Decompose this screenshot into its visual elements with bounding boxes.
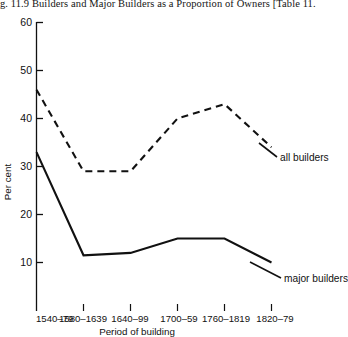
y-axis-ticks — [37, 23, 44, 263]
x-tick-label-1700-59: 1700–59 — [160, 313, 197, 324]
chart-svg: 60 50 40 30 20 10 Per cent 1540–79 1580–… — [0, 10, 348, 337]
y-tick-label-40: 40 — [20, 112, 32, 124]
x-tick-label-1760-1819: 1760–1819 — [202, 313, 250, 324]
y-tick-label-10: 10 — [20, 256, 32, 268]
chart-plot-area: 60 50 40 30 20 10 Per cent 1540–79 1580–… — [0, 10, 348, 337]
x-tick-label-1640-99: 1640–99 — [111, 313, 148, 324]
figure-title: g. 11.9 Builders and Major Builders as a… — [0, 0, 348, 10]
y-tick-label-30: 30 — [20, 160, 32, 172]
leader-line-all-builders — [259, 143, 277, 157]
x-tick-label-1580-1639: 1580–1639 — [59, 313, 107, 324]
x-axis-ticks — [84, 304, 272, 311]
y-axis-title: Per cent — [2, 163, 13, 200]
y-tick-label-20: 20 — [20, 208, 32, 220]
y-tick-label-60: 60 — [20, 16, 32, 28]
x-tick-label-1820-79: 1820–79 — [256, 313, 293, 324]
series-line-major-builders — [37, 152, 272, 262]
leader-line-major-builders — [250, 262, 281, 278]
series-label-major-builders: major builders — [284, 273, 348, 284]
x-axis-title: Period of building — [99, 326, 175, 337]
y-tick-label-50: 50 — [20, 64, 32, 76]
series-label-all-builders: all builders — [280, 152, 329, 163]
series-line-all-builders — [37, 90, 272, 172]
